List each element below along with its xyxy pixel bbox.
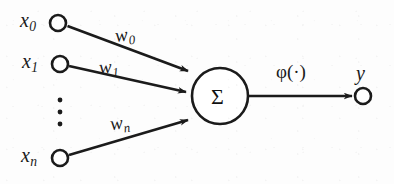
activation-function-label: φ(·) <box>276 62 306 81</box>
input-node-x0 <box>50 15 66 31</box>
ellipsis-dot <box>58 98 63 103</box>
connection-arrow-w1 <box>69 66 186 92</box>
neuron-diagram-canvas <box>0 0 394 184</box>
output-node-y <box>355 88 371 104</box>
input-label-x0: x0 <box>20 10 36 30</box>
weight-label-w0: w0 <box>114 24 135 45</box>
weight-label-wn: wn <box>109 112 131 133</box>
input-label-x1: x1 <box>22 51 38 71</box>
output-label-y: y <box>356 63 365 83</box>
input-label-xn: xn <box>21 145 37 165</box>
ellipsis-dot <box>58 122 63 127</box>
input-node-xn <box>52 150 68 166</box>
weight-label-w1: w1 <box>98 56 119 77</box>
input-node-x1 <box>52 56 68 72</box>
summation-symbol: Σ <box>211 84 224 110</box>
neuron-diagram: x0 x1 xn w0 w1 wn Σ φ(·) y <box>0 0 394 184</box>
ellipsis-dot <box>58 110 63 115</box>
